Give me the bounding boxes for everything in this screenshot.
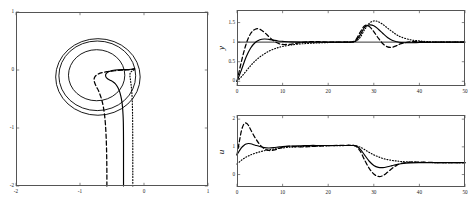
y-tick-label: 1.5 — [221, 20, 235, 25]
y-tick-label: 0 — [221, 79, 235, 84]
x-tick-label: 10 — [280, 89, 285, 94]
y-tick-label: 0 — [221, 172, 235, 177]
x-tick-label: 10 — [280, 190, 285, 195]
u-control-panel — [237, 115, 465, 187]
y-tick-label: 1 — [0, 9, 14, 14]
x-tick-label: 20 — [326, 89, 331, 94]
x-tick-label: 0 — [236, 89, 239, 94]
x-tick-label: 50 — [462, 89, 467, 94]
y-tick-label: 2 — [221, 117, 235, 122]
x-tick-label: -1 — [78, 189, 82, 194]
x-tick-label: -2 — [14, 189, 18, 194]
y-response-frame — [237, 10, 465, 86]
phase-plane-panel — [16, 12, 208, 186]
phase-plane-frame — [16, 12, 208, 186]
y-tick-label: -1 — [0, 125, 14, 130]
y-response-panel — [237, 10, 465, 86]
y-tick-label: 0.5 — [221, 59, 235, 64]
y-tick-label: 1 — [221, 40, 235, 45]
x-tick-label: 30 — [371, 190, 376, 195]
x-tick-label: 0 — [236, 190, 239, 195]
y-tick-label: 0 — [0, 67, 14, 72]
y-axis-title: y — [216, 46, 226, 50]
u-axis-title: u — [216, 150, 226, 155]
x-tick-label: 20 — [326, 190, 331, 195]
x-tick-label: 50 — [462, 190, 467, 195]
u-control-frame — [237, 115, 465, 187]
figure-container: -2-101-2-101 0102030405000.511.5 y 01020… — [0, 0, 473, 202]
x-tick-label: 40 — [417, 89, 422, 94]
x-tick-label: 30 — [371, 89, 376, 94]
y-tick-label: -2 — [0, 183, 14, 188]
x-tick-label: 40 — [417, 190, 422, 195]
x-tick-label: 0 — [143, 189, 146, 194]
x-tick-label: 1 — [207, 189, 210, 194]
